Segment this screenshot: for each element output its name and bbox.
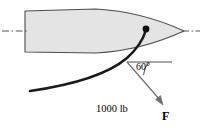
force-caption-line-1: 1000 lb: [96, 103, 140, 115]
figure-container: 60° 1000 lb magnitude force F: [0, 0, 202, 129]
force-magnitude-caption: 1000 lb magnitude force: [96, 79, 140, 129]
force-vector-label: F: [162, 110, 169, 123]
ship-hull: [25, 9, 184, 53]
angle-label: 60°: [136, 61, 150, 72]
cable-attachment-point: [143, 26, 150, 33]
